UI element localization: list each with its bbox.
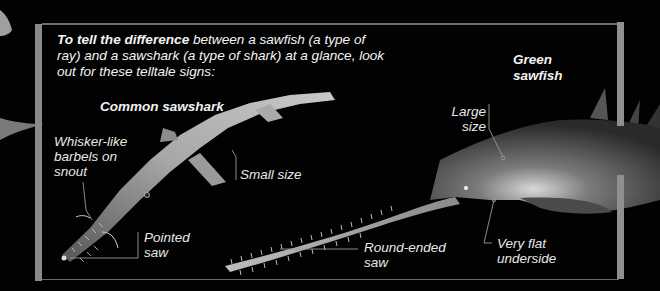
label-line: size — [444, 119, 486, 134]
title-line: sawfish — [513, 68, 563, 84]
sawfish-title: Green sawfish — [513, 52, 563, 84]
label-large-size: Large size — [444, 104, 486, 134]
intro-bold-lead: To tell the difference — [57, 32, 189, 47]
frame-left-bar — [35, 24, 42, 281]
intro-text: To tell the difference between a sawfish… — [57, 32, 387, 80]
label-small-size: Small size — [240, 167, 302, 182]
frame-right-bar-lower — [617, 175, 624, 279]
label-round-ended-saw: Round-ended saw — [364, 240, 446, 270]
label-line: saw — [364, 255, 446, 270]
label-line: saw — [144, 245, 190, 260]
label-line: snout — [54, 164, 127, 179]
label-line: Round-ended — [364, 240, 446, 255]
label-pointed-saw: Pointed saw — [144, 230, 190, 260]
label-very-flat-underside: Very flat underside — [497, 236, 556, 266]
infographic-panel: To tell the difference between a sawfish… — [0, 0, 660, 291]
frame-bottom-line — [42, 279, 619, 280]
sawshark-title: Common sawshark — [100, 99, 224, 115]
label-line: underside — [497, 251, 556, 266]
title-line: Green — [513, 52, 563, 68]
frame-right-bar — [617, 22, 624, 126]
label-line: Whisker-like — [54, 134, 127, 149]
label-line: Very flat — [497, 236, 556, 251]
label-whisker-barbels: Whisker-like barbels on snout — [54, 134, 127, 179]
frame-top-line — [42, 23, 618, 25]
label-line: barbels on — [54, 149, 127, 164]
label-line: Large — [444, 104, 486, 119]
label-line: Pointed — [144, 230, 190, 245]
